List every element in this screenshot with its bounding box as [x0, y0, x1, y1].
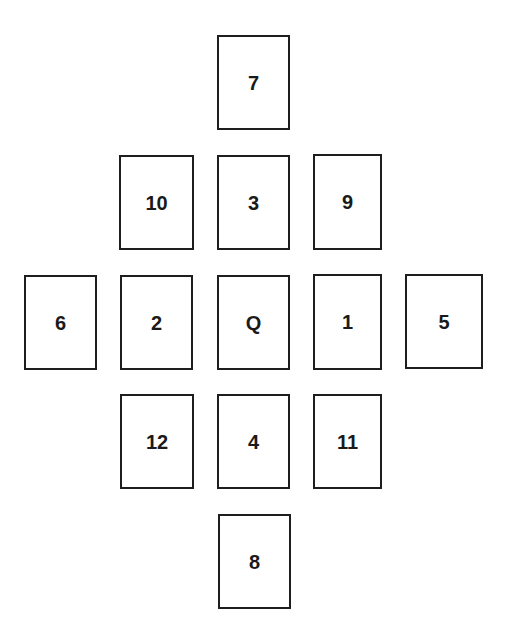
card-position-6: 6	[24, 275, 97, 370]
card-label: 6	[55, 313, 66, 333]
card-label: 3	[248, 193, 259, 213]
card-label: 11	[337, 432, 358, 452]
card-label: 1	[342, 312, 353, 332]
card-label: 8	[249, 552, 260, 572]
card-label: 12	[146, 432, 168, 452]
card-label: 5	[438, 312, 449, 332]
card-label: 2	[151, 313, 162, 333]
card-label: 7	[248, 73, 259, 93]
card-position-11: 11	[313, 394, 382, 489]
card-position-8: 8	[218, 514, 291, 609]
card-position-12: 12	[120, 394, 194, 489]
card-position-2: 2	[120, 275, 193, 370]
card-label: 4	[248, 432, 259, 452]
card-label: 10	[145, 193, 167, 213]
card-label: Q	[246, 313, 262, 333]
card-position-10: 10	[119, 155, 194, 250]
card-position-7: 7	[217, 35, 290, 130]
card-label: 9	[342, 192, 353, 212]
card-position-1: 1	[313, 274, 382, 370]
card-position-4: 4	[217, 394, 290, 489]
card-position-9: 9	[313, 154, 382, 250]
card-position-3: 3	[217, 155, 290, 250]
card-position-querent: Q	[217, 275, 290, 370]
card-position-5: 5	[405, 274, 483, 369]
